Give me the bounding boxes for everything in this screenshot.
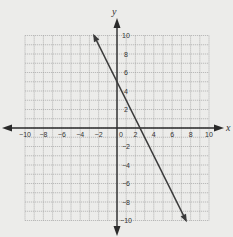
x-tick-label: −4	[76, 131, 84, 138]
y-tick-label: −4	[122, 162, 130, 169]
x-tick-label: 2	[133, 131, 137, 138]
y-tick-label: −8	[122, 199, 130, 206]
y-tick-label: −2	[122, 143, 130, 150]
x-tick-label: −10	[19, 131, 31, 138]
x-tick-label: 10	[205, 131, 213, 138]
x-tick-label: −2	[95, 131, 103, 138]
x-axis-label: x	[225, 122, 231, 133]
y-tick-label: 2	[124, 106, 128, 113]
x-tick-label: −6	[58, 131, 66, 138]
y-tick-label: −10	[120, 217, 132, 224]
coordinate-plane: −10−8−6−4−20246810108642−2−4−6−8−10 x y	[0, 0, 233, 237]
y-tick-label: 10	[122, 32, 130, 39]
y-tick-label: −6	[122, 180, 130, 187]
y-tick-label: 8	[124, 51, 128, 58]
x-tick-label: 8	[189, 131, 193, 138]
y-axis-arrow-down-icon	[114, 226, 121, 236]
y-axis-label: y	[111, 6, 117, 17]
x-axis-arrow-left-icon	[2, 125, 12, 132]
y-tick-label: 6	[124, 69, 128, 76]
x-tick-label: 6	[170, 131, 174, 138]
x-tick-label: 0	[119, 131, 123, 138]
y-axis-arrow-up-icon	[114, 18, 121, 28]
y-tick-label: 4	[124, 88, 128, 95]
x-tick-label: −8	[39, 131, 47, 138]
x-axis-arrow-right-icon	[214, 125, 224, 132]
x-tick-label: 4	[152, 131, 156, 138]
